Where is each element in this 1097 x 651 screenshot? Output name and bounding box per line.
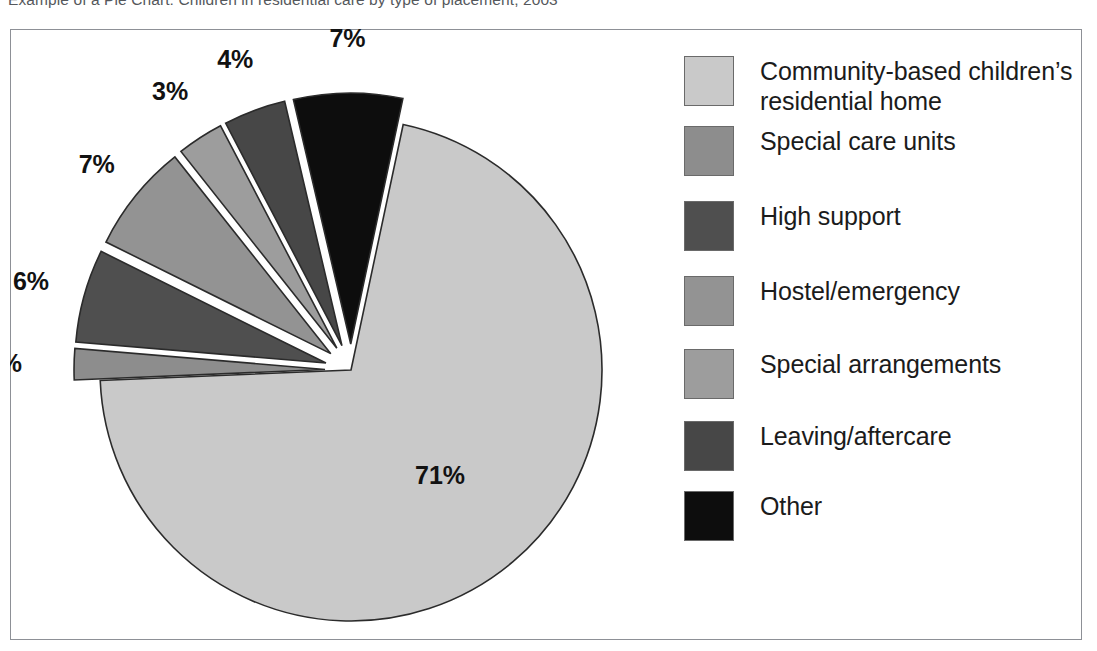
pie-slices-group (74, 93, 602, 621)
pie-label-6: 7% (329, 29, 365, 52)
legend-item-2[interactable]: High support (684, 201, 901, 251)
pie-chart: 71%2%6%7%3%4%7% (10, 29, 1082, 640)
legend-item-5[interactable]: Leaving/aftercare (684, 421, 951, 471)
pie-label-1: 2% (10, 349, 22, 377)
figure-caption: Example of a Pie Chart: Children in resi… (8, 0, 908, 9)
figure-root: Example of a Pie Chart: Children in resi… (0, 0, 1097, 651)
legend-label-0: Community-based children’s residential h… (760, 56, 1072, 116)
legend-label-1: Special care units (760, 126, 956, 157)
legend-label-5: Leaving/aftercare (760, 421, 951, 452)
legend-item-3[interactable]: Hostel/emergency (684, 276, 960, 326)
pie-label-4: 3% (152, 77, 188, 105)
legend-swatch-other (684, 491, 734, 541)
legend-item-1[interactable]: Special care units (684, 126, 956, 176)
pie-label-3: 7% (79, 150, 115, 178)
legend-label-4: Special arrangements (760, 349, 1001, 380)
legend-label-2: High support (760, 201, 901, 232)
legend-swatch-leaving-aftercare (684, 421, 734, 471)
legend-swatch-community-based (684, 56, 734, 106)
legend-label-3: Hostel/emergency (760, 276, 960, 307)
legend-item-4[interactable]: Special arrangements (684, 349, 1001, 399)
legend-swatch-high-support (684, 201, 734, 251)
legend-label-6: Other (760, 491, 822, 522)
legend-swatch-hostel-emergency (684, 276, 734, 326)
pie-label-0: 71% (415, 461, 465, 489)
legend-item-6[interactable]: Other (684, 491, 822, 541)
pie-label-2: 6% (13, 267, 49, 295)
legend-swatch-special-arrangements (684, 349, 734, 399)
pie-label-5: 4% (217, 45, 253, 73)
legend-swatch-special-care-units (684, 126, 734, 176)
legend-item-0[interactable]: Community-based children’s residential h… (684, 56, 1072, 116)
